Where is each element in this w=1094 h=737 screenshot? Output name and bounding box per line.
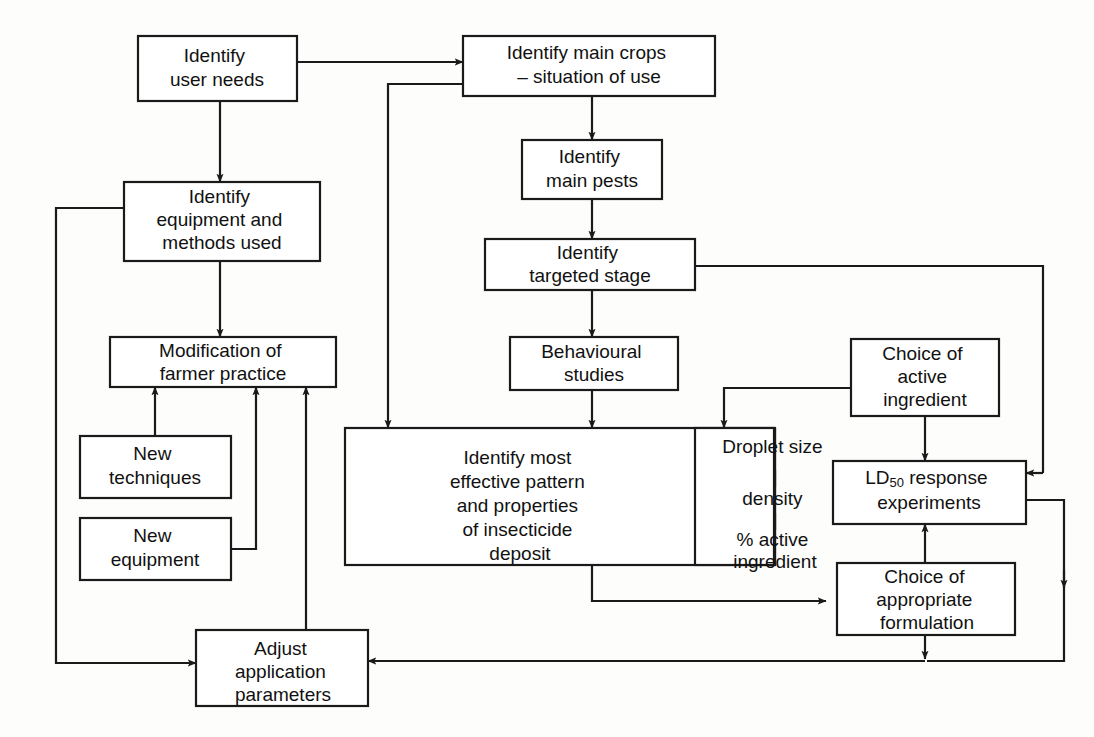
flowchart-svg: Identify user needs Identify main crops …	[0, 0, 1094, 737]
edge-active-ingredient-to-droplet	[724, 388, 851, 428]
edge-main-crops-to-effective-pattern	[388, 84, 463, 428]
label-choice-formulation: Choice of appropriate formulation	[876, 566, 977, 633]
edge-new-equipment-to-modification	[231, 387, 256, 549]
flowchart-canvas: Identify user needs Identify main crops …	[0, 0, 1094, 737]
